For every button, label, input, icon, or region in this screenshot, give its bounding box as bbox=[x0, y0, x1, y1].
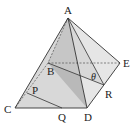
label-q: Q bbox=[58, 111, 66, 123]
label-theta: θ bbox=[91, 71, 96, 82]
label-a: A bbox=[64, 4, 72, 16]
label-e: E bbox=[123, 57, 130, 69]
label-p: P bbox=[32, 84, 38, 96]
label-c: C bbox=[4, 103, 11, 115]
label-d: D bbox=[84, 111, 92, 123]
label-b: B bbox=[47, 65, 54, 77]
label-r: R bbox=[105, 88, 113, 100]
pyramid-diagram: A B C D E P Q R θ bbox=[0, 0, 138, 125]
